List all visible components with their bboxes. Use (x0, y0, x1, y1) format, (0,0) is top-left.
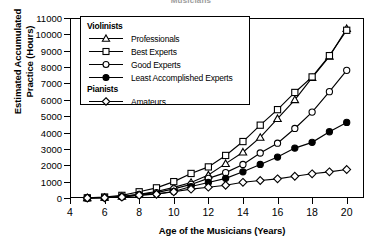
x-tick-label: 8 (136, 206, 142, 218)
y-tick-label: 8000 (41, 62, 62, 73)
x-tick (347, 198, 348, 204)
x-axis-title: Age of the Musicians (Years) (70, 225, 374, 236)
x-tick-label: 6 (102, 206, 108, 218)
legend-item-label: Amateurs (131, 97, 166, 107)
y-axis-title-line2: Practice (Hours) (23, 26, 34, 98)
y-tick-label: 6000 (41, 94, 62, 105)
legend-item[interactable]: Professionals (87, 32, 249, 45)
x-tick-label: 10 (168, 206, 180, 218)
y-tick-label: 4000 (41, 127, 62, 138)
circle-marker-icon (87, 71, 131, 84)
y-tick-label: 0 (57, 193, 62, 204)
legend-item-label: Professionals (131, 34, 179, 44)
x-tick (243, 198, 244, 204)
y-tick-label: 11000 (36, 13, 62, 24)
y-tick-label: 2000 (41, 160, 62, 171)
y-tick-label: 10000 (36, 29, 62, 40)
chart-legend: ViolinistsProfessionalsBest ExpertsGood … (80, 16, 250, 105)
chart-root: Musicians Estimated Accumulated Practice… (0, 0, 382, 245)
x-tick (70, 198, 71, 204)
legend-heading-violinists: Violinists (87, 21, 249, 31)
series-amateurs (83, 166, 350, 202)
x-tick (278, 198, 279, 204)
x-tick (208, 198, 209, 204)
legend-item[interactable]: Least Accomplished Experts (87, 71, 249, 84)
y-tick-label: 9000 (41, 45, 62, 56)
chart-title: Musicians (0, 0, 382, 5)
x-tick-label: 4 (67, 206, 73, 218)
y-tick-label: 7000 (41, 78, 62, 89)
y-tick-label: 5000 (41, 111, 62, 122)
diamond-marker-icon (87, 95, 131, 108)
triangle-up-marker-icon (87, 32, 131, 45)
legend-item-label: Least Accomplished Experts (131, 73, 233, 83)
circle-marker-icon (87, 58, 131, 71)
legend-item[interactable]: Best Experts (87, 45, 249, 58)
x-tick-label: 20 (341, 206, 353, 218)
legend-item-label: Best Experts (131, 47, 177, 57)
y-tick-label: 3000 (41, 143, 62, 154)
x-tick (174, 198, 175, 204)
series-least-accomplished-experts (84, 119, 350, 201)
x-tick-label: 16 (272, 206, 284, 218)
x-tick-label: 18 (306, 206, 318, 218)
x-tick-label: 14 (237, 206, 249, 218)
x-tick-label: 12 (203, 206, 215, 218)
y-tick-label: 1000 (41, 176, 62, 187)
square-marker-icon (87, 45, 131, 58)
legend-item[interactable]: Amateurs (87, 95, 249, 108)
y-axis-title-line1: Estimated Accumulated (12, 9, 23, 114)
legend-heading-pianists: Pianists (87, 84, 249, 94)
legend-item[interactable]: Good Experts (87, 58, 249, 71)
x-tick (312, 198, 313, 204)
legend-item-label: Good Experts (131, 60, 181, 70)
y-axis-title: Estimated Accumulated Practice (Hours) (12, 0, 35, 147)
